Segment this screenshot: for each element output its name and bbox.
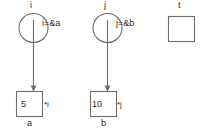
variable-label-t: t [178,1,181,10]
diagram-vector-layer [0,0,208,131]
pointer-label-j: j [104,1,106,10]
empty-box-t[interactable] [169,17,195,42]
variable-label-b: b [101,119,106,128]
pointer-expression-i: i=&a [42,19,60,28]
diagram-canvas: i i=&a 5 *i a j j=&b 10 *j b t [0,0,208,131]
deref-label-j: *j [117,100,122,109]
variable-label-a: a [27,119,32,128]
pointer-label-i: i [30,1,32,10]
value-text-a: 5 [21,100,26,109]
value-text-b: 10 [92,100,102,109]
deref-label-i: *i [44,100,49,109]
pointer-expression-j: j=&b [116,19,134,28]
